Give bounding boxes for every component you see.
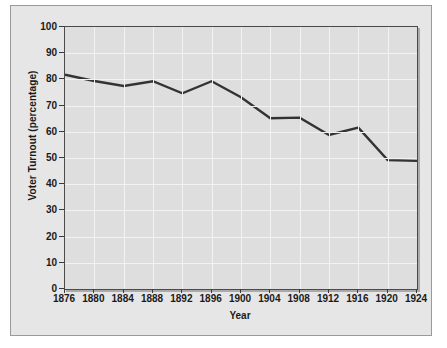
y-axis-tick-label: 60: [29, 125, 57, 136]
chart-figure: Voter Turnout (percentage) 1009080706050…: [10, 5, 432, 336]
plot-area: [64, 26, 418, 290]
y-axis-tick-label: 80: [29, 73, 57, 84]
grid-line-vertical: [182, 27, 183, 289]
y-axis-tick-label: 30: [29, 204, 57, 215]
grid-line-vertical: [329, 27, 330, 289]
y-axis-tick-labels: 1009080706050403020100: [29, 26, 57, 288]
y-axis-tick-label: 70: [29, 99, 57, 110]
y-axis-tick-label: 50: [29, 152, 57, 163]
grid-line-vertical: [94, 27, 95, 289]
y-axis-tick-label: 0: [29, 283, 57, 294]
x-axis-tick-label: 1924: [394, 293, 438, 304]
grid-line-vertical: [241, 27, 242, 289]
grid-line-vertical: [270, 27, 271, 289]
x-axis-tick-labels: 1876188018841888189218961900190419081912…: [64, 293, 416, 309]
y-axis-tick-label: 90: [29, 47, 57, 58]
y-axis-tick-label: 100: [29, 21, 57, 32]
x-axis-title: Year: [64, 310, 416, 321]
y-axis-tick-label: 40: [29, 178, 57, 189]
y-axis-tick-label: 20: [29, 230, 57, 241]
grid-line-vertical: [153, 27, 154, 289]
y-axis-tick-label: 10: [29, 256, 57, 267]
grid-line-vertical: [358, 27, 359, 289]
grid-line-vertical: [388, 27, 389, 289]
grid-line-vertical: [212, 27, 213, 289]
grid-line-vertical: [124, 27, 125, 289]
grid-line-vertical: [300, 27, 301, 289]
